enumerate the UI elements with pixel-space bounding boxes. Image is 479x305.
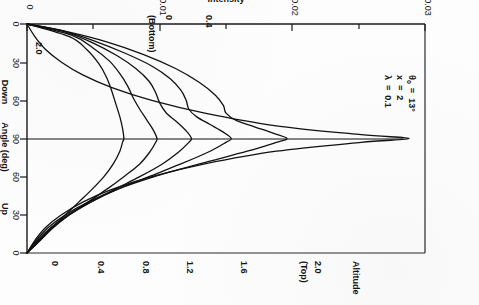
curve-label-2.0: 2.0: [313, 261, 323, 274]
y-axis-title: Angle (deg): [0, 122, 10, 172]
parameter-annotation: λ=0.1 x=2 θo=13°: [383, 75, 417, 112]
x-tick-label-2: 0.01: [158, 0, 168, 16]
annot-eq-x: =: [395, 85, 405, 90]
curve-label-bottom-marker: (Bottom): [147, 15, 157, 53]
curve-label-0.4: 0.4: [96, 261, 106, 274]
annot-value-lambda: 0.1: [383, 95, 393, 108]
y-tick-label-0: 0: [11, 250, 21, 255]
altitude-annotation: Altitude: [351, 261, 361, 295]
annot-symbol-x: x: [395, 75, 405, 80]
annot-eq-lambda: =: [383, 85, 393, 90]
chart-svg: 0.03 0.02 0.01 0 Intensity 0 30 60 90: [0, 0, 479, 305]
curve-label-0.8: 0.8: [141, 261, 151, 274]
annot-eq-theta: =: [407, 88, 417, 93]
annotation-line-x: x=2: [395, 75, 405, 100]
altitude-label: Altitude: [351, 261, 361, 295]
y-tick-label-60down: 60: [11, 96, 21, 106]
y-tick-label-30up: 30: [11, 210, 21, 220]
y-tick-label-60up: 60: [11, 172, 21, 182]
y-tick-label-30down: 30: [11, 58, 21, 68]
annot-value-x: 2: [395, 95, 405, 100]
region-label-up: Up: [0, 203, 10, 215]
curve-labels-bottom: 0.4 0 (Bottom) 2.0: [34, 15, 214, 55]
y-tick-label-90: 90: [11, 134, 21, 144]
curve-label-top-marker: (Top): [299, 261, 309, 283]
annot-symbol-lambda: λ: [383, 75, 393, 80]
curve-label-0-top: 0: [50, 261, 60, 266]
x-axis-ticks: [27, 24, 425, 31]
curve-label-bottom-2.0: 2.0: [34, 42, 44, 55]
curve-labels-top: 2.0 (Top) 1.6 1.2 0.8 0.4 0: [50, 261, 323, 283]
annotation-line-lambda: λ=0.1: [383, 75, 393, 108]
x-tick-label-1: 0.02: [290, 0, 300, 16]
y-tick-label-0down: 0: [11, 21, 21, 26]
figure-root: 0.03 0.02 0.01 0 Intensity 0 30 60 90: [0, 0, 479, 305]
annot-sub-theta: o: [406, 80, 413, 84]
curve-label-1.2: 1.2: [185, 261, 195, 274]
x-axis-title: Intensity: [207, 0, 244, 4]
annot-value-theta: 13°: [407, 98, 417, 112]
x-tick-label-3: 0: [25, 4, 35, 9]
region-label-down: Down: [0, 80, 10, 105]
curve-label-1.6: 1.6: [239, 261, 249, 274]
curve-label-bottom-0.4: 0.4: [204, 15, 214, 28]
curve-label-bottom-0: 0: [164, 15, 174, 20]
annotation-line-theta: θo=13°: [406, 75, 417, 112]
y-axis-tick-labels: 0 30 60 90 60 30 0: [11, 21, 21, 255]
rotated-figure-canvas: 0.03 0.02 0.01 0 Intensity 0 30 60 90: [0, 0, 479, 305]
x-tick-label-0: 0.03: [423, 0, 433, 16]
